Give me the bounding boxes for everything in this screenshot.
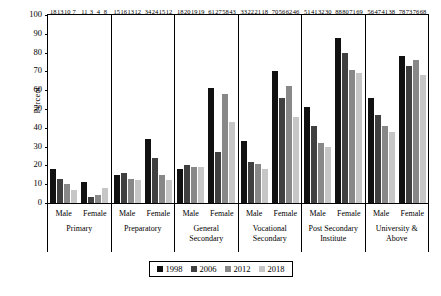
bar-subgroup-female: 88807169 [333,15,364,203]
legend-item-1998: 1998 [157,264,183,274]
bar-1998: 78 [399,56,405,203]
x-category-label: VocationalSecondary [239,223,302,252]
bar-value-label: 41 [381,8,388,15]
y-tick-label: 80 [34,47,43,57]
bar-column: 4 [95,15,102,203]
bar-value-label: 4 [97,8,100,15]
bar-subgroup-male: 18201919 [175,15,206,203]
bar-column: 70 [271,15,278,203]
bar-value-label: 10 [64,8,71,15]
bar-1998: 61 [208,88,214,203]
bar-2018: 68 [420,75,426,203]
bar-subgroup-female: 11348 [79,15,110,203]
x-sex-label: Female [206,209,237,218]
x-sex-labels: MaleFemale [175,204,238,223]
bar-value-label: 76 [413,8,420,15]
bar-2012: 76 [413,60,419,203]
bar-value-label: 15 [113,8,120,15]
bar-column: 69 [356,15,363,203]
bar-2012: 21 [255,164,261,203]
y-tick-label: 10 [34,178,43,188]
legend-swatch [225,266,231,272]
bar-2018: 19 [198,167,204,203]
bar-subgroup-female: 34241512 [143,15,174,203]
y-tick-label: 30 [34,141,43,151]
bar-2006: 16 [121,173,127,203]
bar-2018: 18 [262,169,268,203]
x-category-label: Primary [48,223,111,252]
bar-2012: 58 [222,94,228,203]
bar-column: 34 [144,15,151,203]
bar-column: 58 [222,15,229,203]
y-tick-label: 60 [34,84,43,94]
bar-2012: 4 [95,195,101,203]
bar-subgroup-male: 15161312 [112,15,143,203]
bar-2006: 80 [342,53,348,203]
bar-column: 12 [134,15,141,203]
y-tick-label: 90 [34,28,43,38]
bar-1998: 33 [241,141,247,203]
bar-2006: 27 [215,152,221,203]
y-tick-label: 70 [34,65,43,75]
x-category-vocational-secondary: MaleFemaleVocationalSecondary [239,204,303,252]
bar-2012: 32 [318,143,324,203]
bar-subgroup-female: 61275843 [206,15,237,203]
bar-1998: 18 [177,169,183,203]
bar-value-label: 38 [388,8,395,15]
bar-value-label: 30 [325,8,332,15]
bar-value-label: 34 [145,8,152,15]
y-tick-label: 40 [34,122,43,132]
legend-swatch [259,266,265,272]
bar-2006: 41 [311,126,317,203]
x-sex-labels: MaleFemale [366,204,429,223]
bar-column: 18 [50,15,57,203]
bar-column: 15 [113,15,120,203]
bar-value-label: 78 [399,8,406,15]
bar-group-vocational-secondary: 3322211870566246 [239,15,303,203]
bar-2012: 71 [349,70,355,203]
bar-2018: 38 [389,132,395,203]
bar-value-label: 70 [272,8,279,15]
bar-column: 20 [184,15,191,203]
bar-2012: 41 [382,126,388,203]
x-sex-label: Female [333,209,364,218]
bar-column: 3 [88,15,95,203]
y-tick-label: 20 [34,159,43,169]
x-sex-label: Female [79,209,110,218]
bar-1998: 34 [145,139,151,203]
bar-2018: 12 [166,180,172,203]
bar-value-label: 20 [184,8,191,15]
bar-subgroup-female: 78737668 [397,15,428,203]
bar-column: 15 [158,15,165,203]
x-category-label: Preparatory [112,223,175,252]
y-tick-label: 100 [29,9,42,19]
bar-subgroup-male: 33222118 [239,15,270,203]
bar-column: 61 [208,15,215,203]
bar-value-label: 21 [254,8,261,15]
bar-column: 80 [342,15,349,203]
x-category-label: GeneralSecondary [175,223,238,252]
bar-column: 71 [349,15,356,203]
bar-column: 78 [398,15,405,203]
x-sex-label: Female [397,209,428,218]
bar-column: 19 [198,15,205,203]
x-sex-labels: MaleFemale [239,204,302,223]
bar-column: 56 [367,15,374,203]
bar-value-label: 19 [198,8,205,15]
x-sex-label: Male [112,209,143,218]
bar-column: 22 [247,15,254,203]
bar-value-label: 15 [159,8,166,15]
bar-column: 47 [374,15,381,203]
bar-2012: 13 [128,179,134,203]
legend-label: 1998 [166,264,183,274]
x-sex-label: Male [366,209,397,218]
bar-group-general-secondary: 1820191961275843 [175,15,239,203]
bar-1998: 51 [304,107,310,203]
bar-value-label: 80 [342,8,349,15]
bar-value-label: 18 [177,8,184,15]
bar-value-label: 41 [311,8,318,15]
bar-column: 8 [102,15,109,203]
bar-column: 27 [215,15,222,203]
bar-2012: 15 [159,175,165,203]
bar-column: 56 [278,15,285,203]
